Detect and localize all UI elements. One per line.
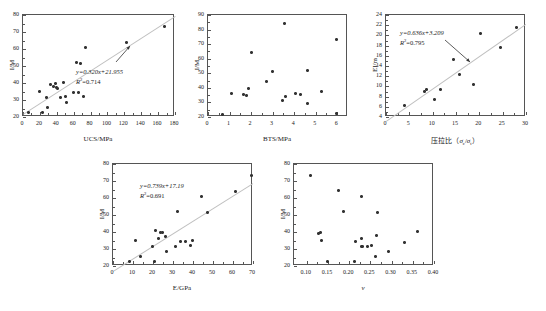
x-tick [392, 261, 393, 264]
x-tick-minor [82, 113, 83, 115]
x-tick [175, 112, 176, 115]
y-tick [386, 66, 389, 67]
y-tick-minor [294, 258, 296, 259]
r-squared-value: R2=0.691 [140, 191, 184, 201]
y-tick [386, 86, 389, 87]
y-tick-minor [386, 92, 388, 93]
y-tick [208, 102, 211, 103]
data-point [154, 229, 157, 232]
data-point [403, 104, 406, 107]
x-tick-minor [317, 262, 318, 264]
y-tick-minor [294, 207, 296, 208]
x-tick [433, 112, 434, 115]
data-point [361, 245, 364, 248]
x-tick [434, 261, 435, 264]
regression-line [23, 16, 176, 115]
data-point [200, 195, 203, 198]
data-point [370, 244, 373, 247]
x-axis-title: 压拉比（σc/σt） [431, 135, 478, 146]
x-tick-label: 20 [149, 269, 155, 275]
y-tick [294, 266, 297, 267]
y-tick-minor [386, 20, 388, 21]
y-tick-label: 20 [96, 262, 109, 268]
y-tick-minor [208, 22, 210, 23]
y-tick-minor [208, 95, 210, 96]
data-point [54, 82, 57, 85]
x-tick-label: 180 [170, 120, 179, 126]
y-tick-label: 20 [6, 113, 19, 119]
x-tick-label: 60 [229, 269, 235, 275]
y-tick-minor [113, 173, 115, 174]
x-tick-label: 30 [169, 269, 175, 275]
data-point [234, 190, 237, 193]
x-tick-label: 0.40 [428, 269, 439, 275]
data-point [433, 98, 436, 101]
data-point [320, 239, 323, 242]
x-tick-label: 70 [249, 269, 255, 275]
x-tick-label: 15 [452, 120, 458, 126]
data-point [374, 255, 377, 258]
data-point [425, 88, 428, 91]
x-tick-label: 100 [102, 120, 111, 126]
data-point [165, 250, 168, 253]
y-tick [386, 76, 389, 77]
x-tick [124, 112, 125, 115]
data-point [75, 61, 78, 64]
data-point [250, 174, 253, 177]
y-tick-minor [386, 51, 388, 52]
y-tick [113, 215, 116, 216]
x-tick [456, 112, 457, 115]
y-tick-label: 10 [369, 82, 382, 88]
y-tick-minor [386, 30, 388, 31]
data-point [265, 80, 268, 83]
x-tick-label: 5 [313, 120, 316, 126]
x-tick [133, 261, 134, 264]
y-tick-label: 30 [6, 96, 19, 102]
x-tick-label: 4 [292, 120, 295, 126]
y-tick-minor [113, 258, 115, 259]
y-tick [113, 266, 116, 267]
y-tick [386, 46, 389, 47]
y-tick-minor [23, 24, 25, 25]
x-tick-minor [283, 113, 284, 115]
y-tick-label: 60 [277, 194, 290, 200]
data-point [56, 87, 59, 90]
regression-equation: y=0.320x+21.955 [76, 68, 123, 77]
y-tick [208, 59, 211, 60]
y-tick-label: 80 [6, 11, 19, 17]
y-tick [294, 164, 297, 165]
data-point [439, 88, 442, 91]
x-tick-minor [444, 113, 445, 115]
data-point [151, 245, 154, 248]
y-tick-minor [113, 224, 115, 225]
y-tick [113, 249, 116, 250]
y-tick [294, 215, 297, 216]
x-tick-label: 40 [189, 269, 195, 275]
y-tick-label: 60 [96, 194, 109, 200]
multi-panel-scatter-figure: 02040608010012014016018020304050607080y=… [0, 0, 546, 311]
y-axis-title: I/M [279, 209, 287, 220]
data-point [403, 241, 406, 244]
y-tick-minor [386, 112, 388, 113]
y-tick [113, 198, 116, 199]
y-tick [386, 25, 389, 26]
data-point [250, 51, 253, 54]
regression-annotation: y=0.739x+17.19R2=0.691 [140, 182, 184, 201]
y-tick-label: 8 [369, 93, 382, 99]
x-tick [57, 112, 58, 115]
x-tick [107, 112, 108, 115]
y-tick [23, 49, 26, 50]
x-tick [413, 261, 414, 264]
data-point [38, 90, 41, 93]
data-point [306, 69, 309, 72]
y-tick-label: 70 [277, 177, 290, 183]
x-tick-label: 2 [249, 120, 252, 126]
y-tick [386, 15, 389, 16]
data-point [515, 26, 518, 29]
data-point [342, 210, 345, 213]
y-tick-minor [113, 207, 115, 208]
y-tick-label: 30 [96, 245, 109, 251]
regression-annotation: y=0.636x+3.209R2=0.795 [400, 29, 444, 48]
y-tick-label: 70 [96, 177, 109, 183]
x-tick [251, 112, 252, 115]
